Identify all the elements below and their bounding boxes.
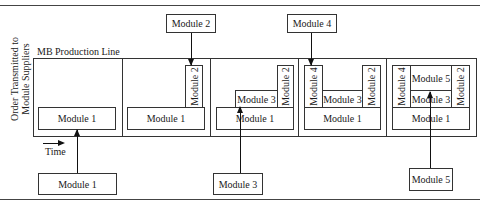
top-rule (0, 5, 480, 6)
arrow-up-icon (240, 107, 241, 173)
incoming-module-5: Module 5 (409, 168, 453, 191)
arrow-down-icon (191, 33, 192, 65)
y-axis-label-line2: Module Suppliers (20, 24, 31, 134)
arrow-up-icon (430, 92, 431, 168)
panel-2-module-2-label: Module 2 (189, 67, 200, 106)
time-label: Time (45, 146, 66, 157)
time-arrow-icon (43, 143, 63, 144)
panel-divider (386, 58, 387, 137)
incoming-module-4: Module 4 (287, 14, 337, 33)
panel-5-module-4-label: Module 4 (396, 67, 407, 106)
y-axis-label-line1: Order Transmitted to (9, 24, 20, 134)
panel-3-module-2-label: Module 2 (280, 67, 291, 106)
panel-4-module-4: Module 4 (304, 65, 323, 108)
incoming-module-3: Module 3 (213, 173, 263, 195)
panel-1-module-1: Module 1 (38, 107, 116, 130)
panel-5-module-2: Module 2 (451, 65, 470, 108)
incoming-module-1: Module 1 (38, 173, 117, 195)
panel-4-module-2: Module 2 (362, 65, 381, 108)
panel-2-module-1: Module 1 (127, 107, 205, 130)
panel-divider (298, 58, 299, 137)
panel-divider (210, 58, 211, 137)
arrow-down-icon (311, 33, 312, 65)
panel-divider (122, 58, 123, 137)
panel-2-module-2: Module 2 (185, 65, 203, 108)
panel-5-module-1: Module 1 (392, 107, 470, 130)
production-line-title: MB Production Line (37, 46, 120, 57)
panel-4-module-4-label: Module 4 (308, 67, 319, 106)
arrow-up-icon (77, 130, 78, 173)
y-axis-label: Order Transmitted to Module Suppliers (9, 24, 31, 134)
panel-3-module-1: Module 1 (216, 107, 294, 130)
panel-4-module-3: Module 3 (322, 90, 363, 108)
panel-3-module-2: Module 2 (277, 65, 294, 108)
panel-5-module-2-label: Module 2 (455, 67, 466, 106)
bottom-rule (0, 199, 480, 200)
panel-5-module-5: Module 5 (410, 65, 452, 91)
incoming-module-2: Module 2 (166, 14, 216, 33)
panel-4-module-1: Module 1 (304, 107, 381, 130)
panel-5-module-4: Module 4 (392, 65, 411, 108)
panel-4-module-2-label: Module 2 (366, 67, 377, 106)
